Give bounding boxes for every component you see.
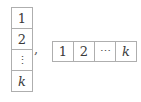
- comma-separator: ,: [34, 42, 38, 55]
- column-tableau: 1 2 ⋮ k: [11, 7, 33, 92]
- row-cell-k: k: [115, 41, 137, 62]
- row-cell-1: 1: [52, 41, 74, 62]
- horizontal-ellipsis: ⋯: [94, 41, 116, 62]
- row-tableau: 1 2 ⋯ k: [52, 41, 137, 62]
- row-cell-2: 2: [73, 41, 95, 62]
- column-cell-1: 1: [11, 7, 33, 29]
- vertical-ellipsis: ⋮: [11, 49, 33, 71]
- column-cell-2: 2: [11, 28, 33, 50]
- math-figure: 1 2 ⋮ k , 1 2 ⋯ k: [0, 0, 141, 102]
- column-cell-k: k: [11, 70, 33, 92]
